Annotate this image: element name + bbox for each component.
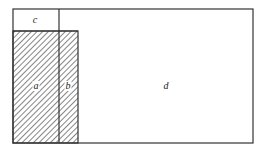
label-b: b (65, 81, 72, 91)
label-c: c (33, 15, 37, 25)
label-d: d (164, 81, 169, 91)
partition-diagram (0, 0, 266, 151)
label-a: a (33, 81, 40, 91)
